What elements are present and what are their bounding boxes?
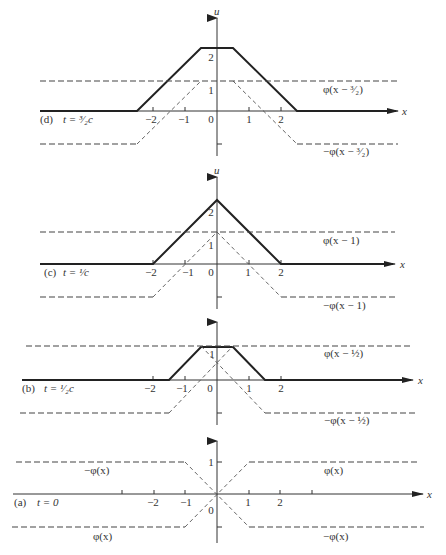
x-axis-label: x bbox=[417, 374, 423, 386]
svg-text:2: 2 bbox=[277, 496, 283, 508]
panel-tag: (a) bbox=[14, 496, 27, 509]
svg-text:2: 2 bbox=[208, 51, 214, 63]
svg-text:−2: −2 bbox=[145, 266, 157, 278]
svg-text:1: 1 bbox=[208, 84, 214, 96]
svg-text:−2: −2 bbox=[144, 382, 156, 394]
upper-left-label: −φ(x) bbox=[84, 464, 110, 477]
upper-dashed-label: φ(x − ³⁄₂) bbox=[323, 83, 363, 96]
svg-text:0: 0 bbox=[208, 113, 214, 125]
lower-right-label: −φ(x) bbox=[323, 530, 349, 543]
u-axis-label: u bbox=[214, 5, 220, 17]
svg-text:−2: −2 bbox=[145, 113, 157, 125]
svg-text:0: 0 bbox=[207, 382, 213, 394]
svg-text:1: 1 bbox=[208, 456, 214, 468]
time-label: t = 0 bbox=[37, 496, 59, 508]
u-axis-label: u bbox=[214, 164, 220, 176]
svg-text:1: 1 bbox=[208, 239, 214, 251]
svg-text:1: 1 bbox=[246, 113, 252, 125]
lower-dashed-label: −φ(x − ³⁄₂) bbox=[323, 145, 369, 158]
time-label: t = ¹⁄₂c bbox=[44, 382, 74, 394]
time-label: t = ³⁄₂c bbox=[63, 113, 93, 125]
svg-text:−1: −1 bbox=[182, 266, 194, 278]
svg-text:0: 0 bbox=[208, 504, 214, 516]
panel-tag: (b) bbox=[22, 382, 35, 395]
svg-text:1: 1 bbox=[246, 382, 252, 394]
svg-text:2: 2 bbox=[278, 113, 284, 125]
lower-left-label: φ(x) bbox=[93, 530, 113, 543]
panel-tag: (d) bbox=[40, 113, 53, 126]
neg-phi-ramp bbox=[233, 81, 297, 144]
svg-text:1: 1 bbox=[209, 348, 215, 360]
panel-tag: (c) bbox=[44, 266, 57, 279]
panel-a: x −2 −1 0 1 2 1 (a) t = 0 −φ(x) φ(x) φ(x… bbox=[12, 441, 432, 543]
x-axis-label: x bbox=[426, 488, 432, 500]
lower-dashed-label: −φ(x − 1) bbox=[323, 299, 366, 312]
svg-text:0: 0 bbox=[208, 266, 214, 278]
x-axis-label: x bbox=[399, 258, 405, 270]
time-label: t = ¹⁄c bbox=[63, 266, 89, 278]
svg-text:−1: −1 bbox=[176, 382, 188, 394]
svg-text:2: 2 bbox=[278, 382, 284, 394]
panel-d: u x −2 −1 0 1 2 1 2 (d) t = ³⁄₂c φ(x − ³… bbox=[40, 5, 407, 158]
upper-dashed-label: φ(x − 1) bbox=[323, 234, 360, 247]
svg-text:2: 2 bbox=[278, 266, 284, 278]
upper-dashed-label: φ(x − ½) bbox=[324, 347, 363, 360]
panel-c: u x −2 −1 0 1 2 1 2 (c) t = ¹⁄c φ(x − 1)… bbox=[40, 164, 405, 312]
x-ticks: −2 −1 0 1 2 1 2 bbox=[145, 51, 284, 144]
x-axis-label: x bbox=[401, 105, 407, 117]
panel-b: x −2 −1 0 1 2 1 (b) t = ¹⁄₂c φ(x − ½) −φ… bbox=[20, 322, 423, 427]
lower-dashed-label: −φ(x − ½) bbox=[324, 414, 370, 427]
svg-text:−1: −1 bbox=[178, 113, 190, 125]
wave-diagram: u x −2 −1 0 1 2 1 2 (d) t = ³⁄₂c φ(x − ³… bbox=[0, 0, 446, 555]
upper-right-label: φ(x) bbox=[324, 464, 344, 477]
svg-text:1: 1 bbox=[245, 496, 251, 508]
svg-text:1: 1 bbox=[245, 266, 251, 278]
svg-text:−1: −1 bbox=[180, 496, 192, 508]
u-curve bbox=[40, 48, 396, 111]
svg-text:−2: −2 bbox=[147, 496, 159, 508]
